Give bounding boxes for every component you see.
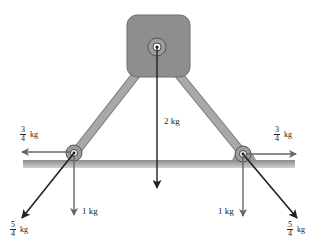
right-horizontal-force-label: 34 kg xyxy=(274,126,292,143)
left-vertical-force-label: 1 kg xyxy=(82,206,98,216)
left-horizontal-force-label: 34 kg xyxy=(20,126,38,143)
right-vertical-force-label: 1 kg xyxy=(218,206,234,216)
left-diagonal-force-label: 54 kg xyxy=(10,221,28,238)
right-diagonal-force-label: 54 kg xyxy=(287,221,305,238)
top-mass-label: 2 kg xyxy=(164,116,180,126)
force-diagram xyxy=(0,0,320,249)
